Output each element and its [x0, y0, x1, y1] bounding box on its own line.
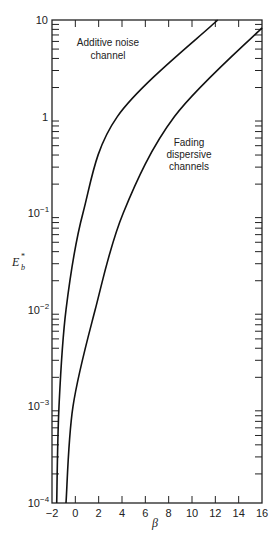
x-tick-label: 0 [72, 507, 78, 519]
chart: 10−410−310−210−1110 −20246810121416 Addi… [0, 0, 280, 537]
y-tick-exponent: −2 [40, 302, 50, 311]
y-axis-label: E b * [11, 252, 25, 272]
y-tick-label: 10 [28, 497, 40, 509]
y-tick-label: 10 [28, 400, 40, 412]
fading-label-line3: channels [169, 161, 209, 172]
fading-label-line2: dispersive [166, 149, 211, 160]
y-tick-exponent: −4 [40, 495, 50, 504]
x-tick-label: 8 [166, 507, 172, 519]
additive-noise-curve [57, 20, 218, 503]
y-tick-label: 10 [36, 14, 48, 26]
additive-label-line2: channel [90, 50, 125, 61]
y-tick-exponent: −1 [40, 205, 50, 214]
x-tick-label: 10 [186, 507, 198, 519]
plot-frame [52, 20, 262, 503]
curves [57, 20, 262, 503]
fading-label-line1: Fading [174, 137, 205, 148]
x-tick-label: 4 [119, 507, 125, 519]
y-tick-label: 1 [42, 111, 48, 123]
y-tick-label: 10 [28, 207, 40, 219]
y-axis-label-main: E [11, 255, 20, 269]
y-tick-label: 10 [28, 304, 40, 316]
y-tick-exponent: −3 [40, 398, 50, 407]
x-tick-label: 12 [209, 507, 221, 519]
y-axis-label-sup: * [21, 252, 25, 261]
x-axis-ticks: −20246810121416 [46, 20, 268, 519]
x-tick-label: 6 [142, 507, 148, 519]
y-axis-ticks: 10−410−310−210−1110 [28, 14, 262, 509]
additive-label-line1: Additive noise [77, 37, 140, 48]
x-axis-label: β [151, 516, 158, 530]
fading-dispersive-curve [66, 28, 262, 503]
y-axis-label-sub: b [21, 263, 25, 272]
x-tick-label: 16 [256, 507, 268, 519]
x-tick-label: −2 [46, 507, 59, 519]
x-tick-label: 2 [96, 507, 102, 519]
x-tick-label: 14 [233, 507, 245, 519]
